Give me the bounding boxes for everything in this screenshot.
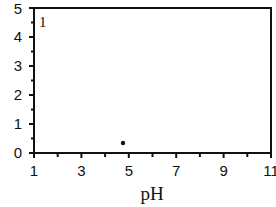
y-tick-label: 5 [14, 0, 22, 17]
y-tick-labels: 0 1 2 3 4 5 [14, 0, 22, 161]
data-point [121, 141, 125, 145]
x-tick-label: 11 [263, 162, 276, 179]
x-axis-label: pH [140, 183, 164, 204]
panel-label: 1 [39, 14, 47, 30]
x-tick-label: 1 [30, 162, 38, 179]
y-tick-label: 0 [14, 144, 22, 161]
x-tick-label: 3 [77, 162, 85, 179]
x-tick-label: 7 [172, 162, 180, 179]
scatter-chart: 0 1 2 3 4 5 1 3 5 7 9 11 1 pH [0, 0, 276, 207]
y-tick-label: 3 [14, 57, 22, 74]
y-tick-label: 1 [14, 115, 22, 132]
x-tick-label: 9 [219, 162, 227, 179]
x-tick-labels: 1 3 5 7 9 11 [30, 162, 276, 179]
y-tick-label: 4 [14, 28, 22, 45]
y-tick-label: 2 [14, 86, 22, 103]
x-tick-label: 5 [125, 162, 133, 179]
plot-frame [34, 8, 271, 153]
